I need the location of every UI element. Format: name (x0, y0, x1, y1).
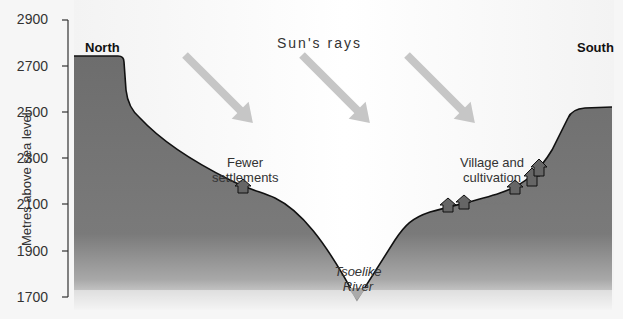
fewer-settlements-line1: Fewer (212, 155, 278, 170)
river-line1: Tsoelike (330, 264, 386, 279)
sun-rays-label: Sun's rays (277, 35, 362, 51)
village-line1: Village and (452, 155, 532, 170)
fewer-settlements-label: Fewer settlements (212, 155, 278, 185)
north-label: North (85, 40, 120, 55)
river-line2: River (330, 279, 386, 294)
fewer-settlements-line2: settlements (212, 170, 278, 185)
village-cultivation-label: Village and cultivation (452, 155, 532, 185)
y-tick-label: 2700 (0, 58, 48, 74)
village-line2: cultivation (452, 170, 532, 185)
y-axis (62, 20, 68, 297)
y-axis-title: Metres above sea level (19, 112, 34, 246)
valley-cross-section-diagram: 2900 2700 2500 2300 2100 1900 1700 Metre… (0, 0, 623, 319)
y-tick-label: 2900 (0, 11, 48, 27)
y-tick-label: 1700 (0, 289, 48, 305)
river-label: Tsoelike River (330, 264, 386, 294)
bottom-fade (74, 290, 614, 319)
south-label: South (577, 40, 614, 55)
